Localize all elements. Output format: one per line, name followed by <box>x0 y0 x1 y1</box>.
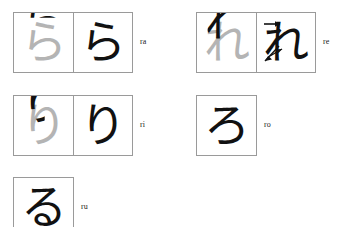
kana-glyph-ru-full: る <box>21 184 67 228</box>
kana-cell-ri-full[interactable]: り <box>73 96 132 155</box>
kana-entry-ru: る ru <box>13 177 88 227</box>
kana-box-group-re: れ れ れ <box>196 12 316 73</box>
kana-cell-ro-full[interactable]: ろ <box>197 96 256 155</box>
kana-glyph-ra-ghost: ら <box>21 19 67 65</box>
kana-glyph-ro-full: ろ <box>204 102 250 148</box>
kana-box-group-ru: る <box>13 177 74 227</box>
kana-cell-ri-trace[interactable]: り り <box>14 96 73 155</box>
kana-cell-ru-full[interactable]: る <box>14 178 73 227</box>
kana-entry-ri: り り り ri <box>13 95 145 156</box>
kana-box-group-ra: ら ら ら <box>13 12 133 73</box>
romaji-label-ro: ro <box>264 121 271 129</box>
kana-glyph-ri-full: り <box>80 102 126 148</box>
romaji-label-ru: ru <box>81 203 88 211</box>
romaji-label-ri: ri <box>140 121 145 129</box>
kana-entry-re: れ れ れ <box>196 12 330 73</box>
romaji-label-re: re <box>323 38 330 46</box>
kana-cell-ra-trace[interactable]: ら ら <box>14 13 73 72</box>
kana-entry-ra: ら ら ら ra <box>13 12 147 73</box>
romaji-label-ra: ra <box>140 38 147 46</box>
kana-box-group-ri: り り り <box>13 95 133 156</box>
hiragana-practice-sheet: ら ら ら ra れ れ れ <box>0 0 348 227</box>
kana-glyph-re-full: れ <box>263 19 309 65</box>
kana-cell-re-full[interactable]: れ <box>256 13 315 72</box>
kana-entry-ro: ろ ro <box>196 95 271 156</box>
kana-glyph-ra-full: ら <box>80 19 126 65</box>
kana-cell-ra-full[interactable]: ら <box>73 13 132 72</box>
kana-cell-re-trace[interactable]: れ れ <box>197 13 256 72</box>
kana-box-group-ro: ろ <box>196 95 257 156</box>
